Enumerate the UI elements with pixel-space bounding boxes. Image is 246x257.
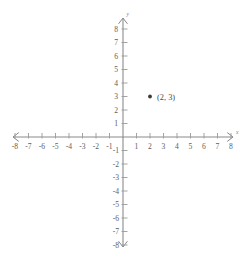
y-tick-label: -3 (113, 173, 120, 182)
data-point-label: (2, 3) (157, 93, 175, 102)
x-tick-label: -7 (25, 142, 32, 151)
y-tick-label: 7 (114, 38, 118, 47)
x-tick-label: 8 (229, 142, 233, 151)
x-tick-label: -2 (93, 142, 100, 151)
y-axis (119, 18, 127, 247)
x-tick-label: 7 (216, 142, 220, 151)
y-tick-label: -1 (113, 146, 120, 155)
x-tick-label: 5 (189, 142, 193, 151)
y-tick-label: -4 (113, 187, 120, 196)
y-tick-label: -6 (113, 214, 120, 223)
x-tick-label: -8 (12, 142, 19, 151)
x-tick-label: 3 (162, 142, 166, 151)
x-tick-label: 6 (202, 142, 206, 151)
y-tick-label: 4 (114, 79, 118, 88)
x-tick-label: -6 (39, 142, 46, 151)
y-tick-label: -8 (113, 241, 120, 250)
x-tick-label: 4 (175, 142, 179, 151)
x-axis-label: x (235, 129, 239, 135)
y-tick-label: 3 (114, 92, 118, 101)
y-tick-label: -2 (113, 160, 120, 169)
coordinate-plane: -8-7-6-5-4-3-2-112345678 87654321-1-2-3-… (0, 0, 246, 257)
x-tick-label: 2 (148, 142, 152, 151)
data-point (148, 95, 152, 99)
y-tick-label: 2 (114, 106, 118, 115)
y-tick-label: -5 (113, 200, 120, 209)
x-tick-label: 1 (135, 142, 139, 151)
y-tick-label: 5 (114, 65, 118, 74)
y-tick-label: 1 (114, 119, 118, 128)
y-tick-label: 8 (114, 25, 118, 34)
x-tick-label: -5 (52, 142, 59, 151)
x-tick-label: -4 (66, 142, 73, 151)
x-tick-label: -3 (79, 142, 86, 151)
plotted-points: (2, 3) (148, 93, 175, 102)
y-axis-label: y (126, 11, 130, 17)
y-tick-label: -7 (113, 227, 120, 236)
y-tick-label: 6 (114, 52, 118, 61)
